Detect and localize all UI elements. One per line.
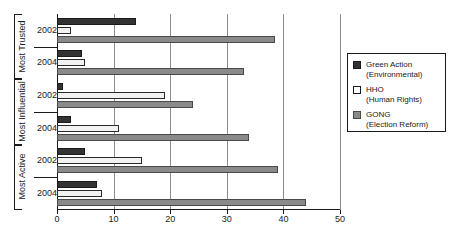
x-axis-ticks: 01020304050 [57, 210, 340, 226]
bar-gong [57, 166, 278, 173]
legend-swatch-gong [353, 111, 361, 119]
legend-label-block: GONG(Election Reform) [366, 110, 428, 130]
category-tick-label: 2002 [26, 79, 57, 112]
legend-series-subtitle: (Election Reform) [366, 120, 428, 130]
category-tick-label: 2002 [26, 145, 57, 178]
bar-gong [57, 68, 244, 75]
bar-gong [57, 101, 193, 108]
bar-hho [57, 190, 102, 197]
bar-group [57, 177, 340, 210]
legend-item[interactable]: Green Action(Environmental) [353, 60, 440, 80]
category-tick-label: 2004 [26, 47, 57, 80]
legend-series-subtitle: (Environmental) [366, 70, 422, 80]
category-tick-label: 2004 [26, 112, 57, 145]
legend-item[interactable]: HHO(Human Rights) [353, 85, 440, 105]
bar-hho [57, 92, 165, 99]
chart-container: Most TrustedMost InfluentialMost Active … [0, 0, 453, 242]
bar-group [57, 79, 340, 112]
x-tick-label: 20 [165, 215, 175, 224]
bar-rows [57, 14, 340, 210]
legend-label-block: HHO(Human Rights) [366, 85, 422, 105]
category-axis-labels: 200220042002200420022004 [26, 14, 57, 210]
category-tick-label: 2002 [26, 14, 57, 47]
bar-green [57, 18, 136, 25]
bar-green [57, 83, 63, 90]
bar-hho [57, 59, 85, 66]
bar-group [57, 112, 340, 145]
bar-hho [57, 125, 119, 132]
legend-series-name: Green Action [366, 60, 422, 70]
bar-group [57, 47, 340, 80]
bar-gong [57, 199, 306, 206]
bar-green [57, 116, 71, 123]
bar-gong [57, 134, 249, 141]
bar-group [57, 14, 340, 47]
category-tick-label: 2004 [26, 177, 57, 210]
x-tick-label: 10 [109, 215, 119, 224]
bar-hho [57, 157, 142, 164]
x-tick-label: 50 [335, 215, 345, 224]
legend-swatch-hho [353, 86, 361, 94]
legend-series-name: HHO [366, 85, 422, 95]
x-tick-label: 30 [222, 215, 232, 224]
bar-green [57, 181, 97, 188]
group-axis: Most TrustedMost InfluentialMost Active [2, 14, 26, 210]
bar-green [57, 50, 82, 57]
bar-hho [57, 27, 71, 34]
x-tick-label: 40 [278, 215, 288, 224]
bar-gong [57, 36, 275, 43]
legend-swatch-green [353, 61, 361, 69]
legend: Green Action(Environmental)HHO(Human Rig… [347, 53, 446, 132]
legend-series-subtitle: (Human Rights) [366, 95, 422, 105]
bar-green [57, 148, 85, 155]
legend-series-name: GONG [366, 110, 428, 120]
plot-area [57, 14, 340, 210]
legend-item[interactable]: GONG(Election Reform) [353, 110, 440, 130]
gridline [340, 14, 341, 210]
x-tick-label: 0 [54, 215, 59, 224]
legend-label-block: Green Action(Environmental) [366, 60, 422, 80]
bar-group [57, 145, 340, 178]
